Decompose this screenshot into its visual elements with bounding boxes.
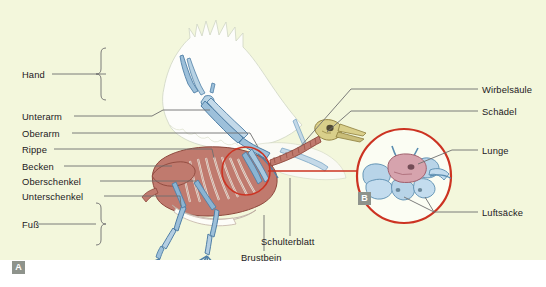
label-lunge: Lunge — [482, 146, 509, 155]
panel-b-badge: B — [358, 192, 371, 205]
figure-footer-strip — [0, 260, 546, 287]
anatomy-figure: Hand Unterarm Oberarm Rippe Becken Obers… — [0, 0, 546, 287]
label-schulterblatt: Schulterblatt — [261, 237, 314, 246]
label-unterschenkel: Unterschenkel — [22, 192, 83, 201]
label-fuss: Fuß — [22, 220, 39, 229]
label-hand: Hand — [22, 70, 45, 79]
label-luftsaecke: Luftsäcke — [482, 208, 523, 217]
label-oberschenkel: Oberschenkel — [22, 177, 81, 186]
label-schaedel: Schädel — [482, 107, 517, 116]
detail-inset-b — [357, 129, 452, 223]
label-oberarm: Oberarm — [22, 129, 60, 138]
label-wirbelsaeule: Wirbelsäule — [482, 85, 532, 94]
panel-a-badge: A — [12, 261, 25, 274]
label-brustbein: Brustbein — [241, 253, 282, 262]
label-rippe: Rippe — [22, 145, 47, 154]
label-unterarm: Unterarm — [22, 112, 62, 121]
label-becken: Becken — [22, 162, 54, 171]
